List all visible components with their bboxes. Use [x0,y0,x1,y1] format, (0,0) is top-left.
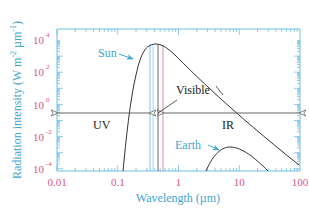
ir-label: IR [222,118,234,132]
x-tick-label: 0.01 [47,176,66,188]
svg-text:10: 10 [33,131,45,143]
y-tick-label-1e2: 10 2 [33,63,50,78]
radiation-spectrum-chart: Sun Earth Visible UV IR 0.01 0.1 1 10 10… [0,0,309,214]
sun-label: Sun [98,46,117,60]
y-tick-label-1e4: 10 4 [33,31,50,46]
svg-text:-2: -2 [46,128,52,136]
earth-pointer-icon [208,145,219,150]
svg-text:10: 10 [33,163,45,175]
x-axis-label: Wavelength (µm) [136,191,220,205]
sun-curve [123,44,299,171]
y-tick-label-1e-4: 10 -4 [33,160,52,175]
earth-label: Earth [175,138,201,152]
sun-pointer-icon [119,54,133,59]
visible-leader-line-2 [216,86,223,95]
visible-leader-line [158,100,177,113]
x-tick-label: 0.1 [111,176,125,188]
svg-text:10: 10 [33,34,45,46]
x-tick-label: 10 [234,176,246,188]
x-tick-label: 100 [292,176,309,188]
x-tick-label: 1 [176,176,182,188]
y-axis-label: Radiation intensity (W m-2 µm-1) [9,21,24,179]
svg-text:10: 10 [33,66,45,78]
y-tick-label-1e-2: 10 -2 [33,128,52,143]
y-tick-label-1e0: 10 0 [33,96,50,111]
visible-band [150,44,163,171]
uv-label: UV [93,118,111,132]
visible-label: Visible [176,83,210,97]
svg-text:2: 2 [46,63,50,71]
svg-text:10: 10 [33,99,45,111]
earth-curve [206,147,268,171]
svg-text:0: 0 [46,96,50,104]
svg-text:-4: -4 [46,160,52,168]
svg-text:4: 4 [46,31,50,39]
